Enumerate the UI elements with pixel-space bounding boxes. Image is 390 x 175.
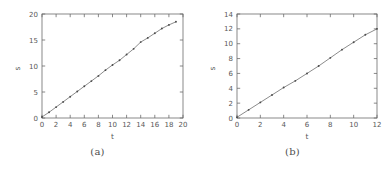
panel-a-caption: (a) — [0, 146, 195, 157]
data-point-marker — [161, 28, 163, 30]
x-tick-label: 14 — [136, 121, 145, 129]
x-tick-label: 10 — [108, 121, 117, 129]
data-point-marker — [318, 65, 320, 67]
data-point-marker — [283, 87, 285, 89]
panel-a: 0246810121416182005101520ts (a) — [0, 0, 195, 175]
y-tick-label: 5 — [34, 89, 38, 97]
data-point-marker — [119, 59, 121, 61]
y-tick-label: 0 — [229, 115, 233, 123]
x-tick-label: 10 — [349, 121, 358, 129]
x-tick-label: 8 — [328, 121, 332, 129]
data-point-marker — [353, 41, 355, 43]
y-tick-label: 0 — [34, 115, 38, 123]
x-tick-label: 8 — [96, 121, 100, 129]
data-point-marker — [76, 91, 78, 93]
data-point-marker — [341, 49, 343, 51]
data-point-marker — [364, 34, 366, 36]
data-point-marker — [97, 75, 99, 77]
y-tick-label: 8 — [229, 55, 233, 63]
y-tick-label: 4 — [229, 85, 234, 93]
x-tick-label: 0 — [40, 121, 44, 129]
data-point-marker — [271, 94, 273, 96]
x-tick-label: 12 — [373, 121, 382, 129]
panel-b-caption: (b) — [195, 146, 390, 157]
data-point-marker — [154, 32, 156, 34]
data-point-marker — [126, 54, 128, 56]
data-point-marker — [112, 64, 114, 66]
y-axis-title: s — [13, 66, 22, 70]
x-axis-title: t — [111, 132, 114, 141]
data-point-marker — [105, 69, 107, 71]
y-tick-label: 20 — [29, 11, 38, 19]
data-line — [42, 22, 176, 117]
data-point-marker — [90, 80, 92, 82]
figure-two-panel-plot: 0246810121416182005101520ts (a) 02468101… — [0, 0, 390, 175]
x-tick-label: 0 — [235, 121, 239, 129]
data-point-marker — [41, 116, 43, 118]
plot-frame — [237, 14, 377, 118]
x-tick-label: 6 — [82, 121, 87, 129]
x-tick-label: 4 — [68, 121, 73, 129]
data-point-marker — [83, 85, 85, 87]
x-tick-label: 12 — [122, 121, 131, 129]
y-tick-label: 10 — [29, 63, 38, 71]
x-tick-label: 4 — [281, 121, 286, 129]
y-axis-title: s — [208, 66, 217, 70]
data-point-marker — [147, 37, 149, 39]
y-tick-label: 2 — [229, 100, 233, 108]
x-tick-label: 6 — [305, 121, 310, 129]
y-tick-label: 12 — [224, 25, 233, 33]
data-point-marker — [259, 101, 261, 103]
x-tick-label: 18 — [164, 121, 173, 129]
data-point-marker — [168, 24, 170, 26]
x-tick-label: 2 — [54, 121, 58, 129]
x-tick-label: 16 — [150, 121, 159, 129]
y-tick-label: 6 — [229, 70, 234, 78]
data-point-marker — [62, 101, 64, 103]
data-point-marker — [376, 28, 378, 30]
data-point-marker — [48, 111, 50, 113]
data-point-marker — [133, 48, 135, 50]
data-point-marker — [55, 106, 57, 108]
panel-b: 02468101202468101214ts (b) — [195, 0, 390, 175]
y-tick-label: 10 — [224, 40, 233, 48]
data-point-marker — [175, 21, 177, 23]
x-axis-title: t — [306, 132, 309, 141]
data-point-marker — [69, 96, 71, 98]
y-tick-label: 14 — [224, 11, 233, 19]
data-point-marker — [248, 109, 250, 111]
data-point-marker — [236, 116, 238, 118]
data-point-marker — [140, 41, 142, 43]
y-tick-label: 15 — [29, 37, 38, 45]
data-point-marker — [294, 80, 296, 82]
x-tick-label: 2 — [258, 121, 262, 129]
x-tick-label: 20 — [179, 121, 188, 129]
data-point-marker — [329, 57, 331, 59]
data-point-marker — [306, 72, 308, 74]
